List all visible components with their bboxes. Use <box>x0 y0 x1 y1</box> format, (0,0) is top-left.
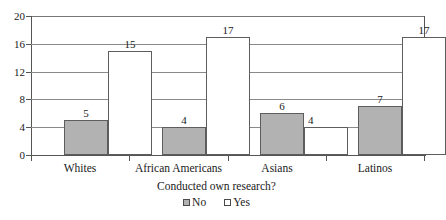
plot-area: 5 15 4 17 6 4 7 17 <box>31 16 425 155</box>
legend-item-yes[interactable]: Yes <box>224 196 250 209</box>
bar-asians-no[interactable] <box>260 113 304 155</box>
x-tick-mark-2 <box>228 156 229 161</box>
bar-whites-yes[interactable] <box>108 51 152 155</box>
bar-asians-yes[interactable] <box>304 127 348 155</box>
y-tick-label-8: 8 <box>3 94 25 105</box>
bar-value-asians-no: 6 <box>260 101 304 112</box>
x-tick-mark-4 <box>424 156 425 161</box>
legend-label-no: No <box>192 196 206 209</box>
bar-african-americans-yes[interactable] <box>206 37 250 155</box>
legend-item-no[interactable]: No <box>183 196 206 209</box>
bar-whites-no[interactable] <box>64 120 108 155</box>
bar-latinos-yes[interactable] <box>402 37 446 155</box>
bar-value-african-americans-no: 4 <box>162 115 206 126</box>
y-tick-label-12: 12 <box>3 67 25 78</box>
y-tick-label-4: 4 <box>3 122 25 133</box>
x-tick-mark-3 <box>326 156 327 161</box>
x-axis-title: Conducted own research? <box>0 180 433 193</box>
bar-latinos-no[interactable] <box>358 106 402 155</box>
legend-label-yes: Yes <box>233 196 250 209</box>
bar-value-african-americans-yes: 17 <box>206 25 250 36</box>
bar-value-whites-yes: 15 <box>108 39 152 50</box>
bar-value-latinos-yes: 17 <box>402 25 446 36</box>
bar-value-latinos-no: 7 <box>358 94 402 105</box>
x-tick-mark-0 <box>31 156 32 161</box>
bar-african-americans-no[interactable] <box>162 127 206 155</box>
y-tick-label-20: 20 <box>3 11 25 22</box>
y-tick-label-0: 0 <box>3 150 25 161</box>
x-tick-mark-1 <box>129 156 130 161</box>
x-category-label-latinos: Latinos <box>326 162 424 175</box>
legend-swatch-no-icon <box>183 199 190 206</box>
legend: No Yes <box>0 196 433 209</box>
y-tick-label-16: 16 <box>3 39 25 50</box>
bar-value-asians-yes: 4 <box>308 115 352 126</box>
bar-value-whites-no: 5 <box>64 108 108 119</box>
x-category-label-african-americans: African Americans <box>129 162 228 175</box>
x-category-label-asians: Asians <box>228 162 326 175</box>
legend-swatch-yes-icon <box>224 199 231 206</box>
x-category-label-whites: Whites <box>31 162 129 175</box>
